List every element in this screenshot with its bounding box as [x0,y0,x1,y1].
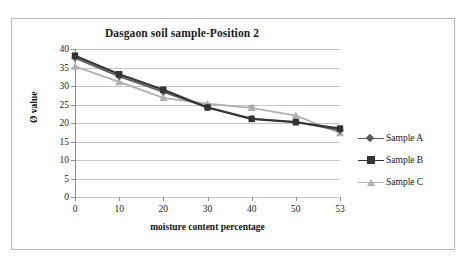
legend-item-sample-c[interactable]: Sample C [358,171,454,193]
data-point-marker [71,62,79,69]
legend-key [358,133,384,143]
y-tick-label: 40 [60,44,70,54]
legend-label: Sample A [384,133,423,143]
x-tick-label: 20 [159,204,169,214]
y-tick-label: 25 [60,100,70,110]
x-tick [252,197,253,201]
legend-marker-triangle [367,179,375,186]
data-point-marker [116,71,122,77]
legend-marker-diamond [366,134,374,142]
chart-legend: Sample ASample BSample C [358,127,454,193]
x-tick-label: 10 [114,204,124,214]
x-tick [75,197,76,201]
data-point-marker [248,116,254,122]
series-lines [75,49,340,197]
y-tick-label: 15 [60,137,70,147]
data-point-marker [337,125,343,131]
x-tick [296,197,297,201]
x-tick-label: 0 [73,204,78,214]
x-tick [340,197,341,201]
y-tick-label: 0 [64,192,69,202]
plot-area: 0510152025303540 0102030405053 Ø value m… [12,19,456,251]
x-tick-label: 50 [291,204,301,214]
x-tick [208,197,209,201]
y-tick-label: 20 [60,118,70,128]
x-tick-label: 40 [247,204,257,214]
plot-canvas: 0510152025303540 0102030405053 [75,49,340,197]
y-tick-label: 5 [64,174,69,184]
y-tick-label: 10 [60,155,70,165]
legend-label: Sample B [384,155,423,165]
data-point-marker [293,119,299,125]
legend-item-sample-b[interactable]: Sample B [358,149,454,171]
legend-marker-square [367,156,375,164]
legend-item-sample-a[interactable]: Sample A [358,127,454,149]
x-tick-label: 53 [335,204,345,214]
legend-key [358,155,384,165]
y-tick-label: 30 [60,81,70,91]
y-tick-label: 35 [60,63,70,73]
data-point-marker [72,52,78,58]
x-tick [163,197,164,201]
y-axis-title: Ø value [29,92,39,123]
series-line [75,58,340,131]
legend-key [358,177,384,187]
x-axis-title: moisture content percentage [75,222,340,232]
x-tick-label: 30 [203,204,213,214]
data-point-marker [160,87,166,93]
data-point-marker [204,104,210,110]
x-tick [119,197,120,201]
legend-label: Sample C [384,177,423,187]
chart-figure: Dasgaon soil sample-Position 2 051015202… [11,18,455,250]
